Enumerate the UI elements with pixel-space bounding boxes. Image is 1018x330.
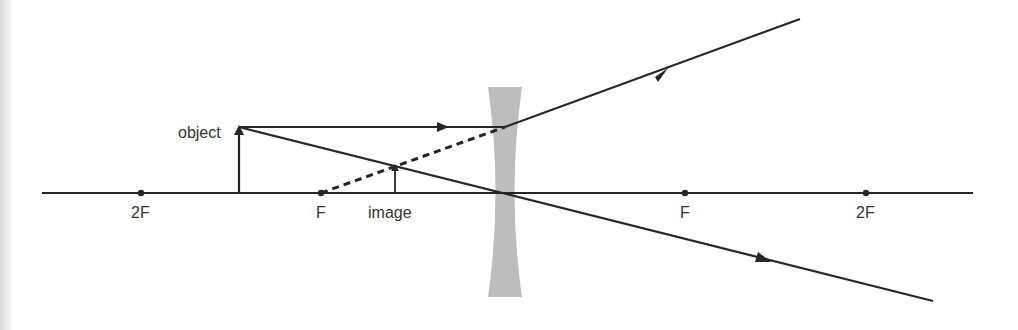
label-image: image bbox=[368, 204, 412, 221]
label-2f-left: 2F bbox=[131, 204, 150, 221]
point-2f-right bbox=[863, 190, 869, 196]
label-f-left: F bbox=[316, 204, 326, 221]
ray-virtual-extension bbox=[321, 127, 505, 193]
point-f-right bbox=[682, 190, 688, 196]
ray-through-center bbox=[239, 127, 933, 301]
label-2f-right: 2F bbox=[856, 204, 875, 221]
ray-arrow-icon bbox=[437, 122, 449, 132]
ray-diagram: object image 2F F F 2F bbox=[0, 0, 1018, 330]
ray-arrow-icon bbox=[755, 252, 771, 262]
point-2f-left bbox=[138, 190, 144, 196]
label-object: object bbox=[178, 124, 221, 141]
label-f-right: F bbox=[680, 204, 690, 221]
ray-parallel-refracted bbox=[505, 19, 800, 127]
